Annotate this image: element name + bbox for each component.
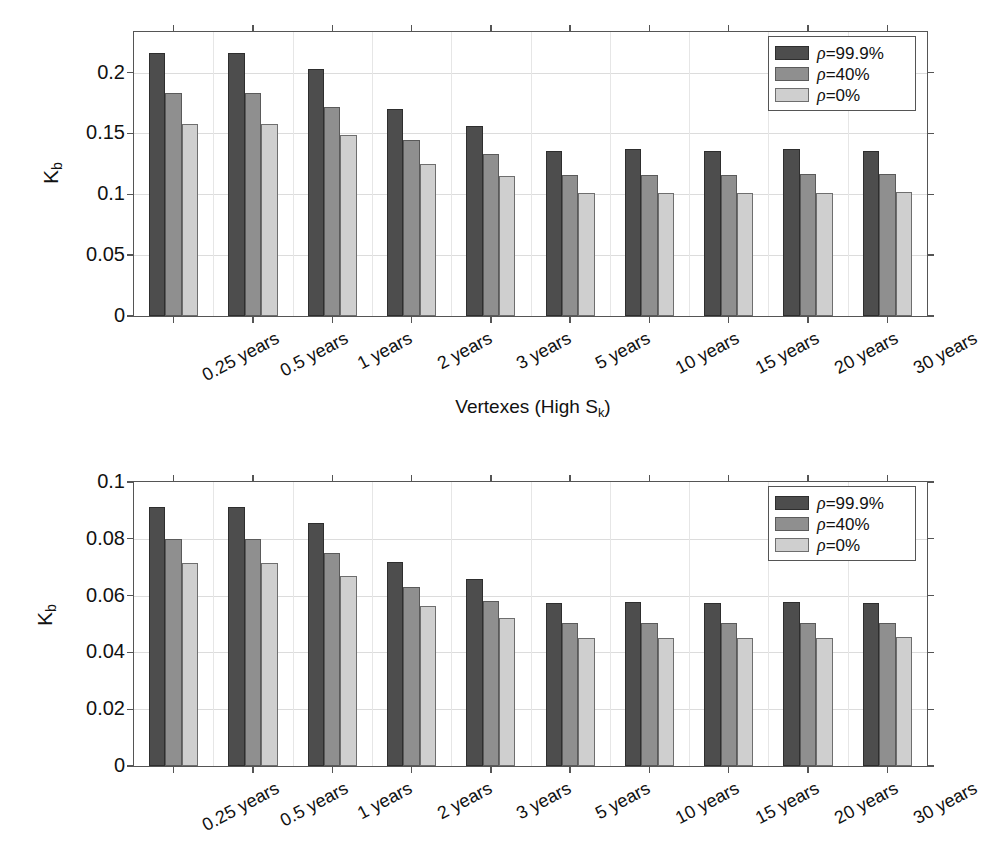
x-tick-top bbox=[490, 25, 491, 32]
legend-label: ρ=0% bbox=[817, 536, 860, 554]
x-category-label: 3 years bbox=[513, 778, 575, 824]
x-tick-top bbox=[173, 25, 174, 32]
bar bbox=[783, 149, 799, 316]
y-tick-right bbox=[927, 72, 934, 73]
bar bbox=[387, 562, 403, 766]
y-tick-right bbox=[927, 315, 934, 316]
x-gridline bbox=[293, 482, 294, 766]
legend-row[interactable]: ρ=99.9% bbox=[775, 42, 907, 63]
x-category-label: 3 years bbox=[513, 328, 575, 374]
x-gridline bbox=[293, 32, 294, 316]
x-gridline bbox=[451, 32, 452, 316]
bar bbox=[721, 175, 737, 316]
x-tick bbox=[807, 316, 808, 323]
x-tick bbox=[728, 766, 729, 773]
y-tick-label: 0.02 bbox=[0, 697, 125, 720]
x-tick bbox=[411, 316, 412, 323]
legend-row[interactable]: ρ=0% bbox=[775, 84, 907, 105]
bar bbox=[737, 638, 753, 766]
x-category-label: 30 years bbox=[910, 778, 981, 829]
bar bbox=[816, 193, 832, 316]
chart-panel-top: Kb Vertexes (High Sk) ρ=99.9%ρ=40%ρ=0% 0… bbox=[0, 0, 970, 450]
bar bbox=[420, 164, 436, 316]
legend-label: ρ=99.9% bbox=[817, 494, 884, 512]
legend-label: ρ=99.9% bbox=[817, 44, 884, 62]
bar bbox=[466, 126, 482, 316]
x-tick-top bbox=[332, 25, 333, 32]
rho-symbol: ρ bbox=[817, 493, 826, 513]
x-tick bbox=[569, 766, 570, 773]
rho-symbol: ρ bbox=[817, 535, 826, 555]
x-tick-top bbox=[173, 475, 174, 482]
bar bbox=[149, 53, 165, 316]
y-tick-right bbox=[927, 481, 934, 482]
bar bbox=[483, 154, 499, 316]
x-tick-top bbox=[807, 25, 808, 32]
y-tick bbox=[127, 709, 134, 710]
x-category-label: 0.25 years bbox=[198, 778, 282, 836]
y-axis-title-bottom-main: K bbox=[33, 612, 56, 626]
x-tick-top bbox=[252, 475, 253, 482]
bar bbox=[308, 523, 324, 766]
x-axis-title-top-tail: ) bbox=[604, 396, 610, 417]
legend-label: ρ=40% bbox=[817, 515, 870, 533]
y-tick bbox=[127, 72, 134, 73]
x-tick bbox=[490, 766, 491, 773]
bar bbox=[737, 193, 753, 316]
bar bbox=[546, 603, 562, 766]
bar bbox=[704, 603, 720, 766]
y-tick-right bbox=[927, 709, 934, 710]
bar bbox=[324, 553, 340, 766]
x-category-label: 20 years bbox=[831, 328, 902, 379]
y-tick-right bbox=[927, 254, 934, 255]
y-tick-label: 0.1 bbox=[0, 470, 125, 493]
x-category-label: 30 years bbox=[910, 328, 981, 379]
y-tick-right bbox=[927, 133, 934, 134]
x-tick bbox=[649, 766, 650, 773]
bar bbox=[863, 151, 879, 316]
x-gridline bbox=[213, 32, 214, 316]
x-tick bbox=[490, 316, 491, 323]
y-tick-right bbox=[927, 538, 934, 539]
bar bbox=[182, 124, 198, 316]
bar bbox=[641, 175, 657, 316]
bar bbox=[704, 151, 720, 316]
x-tick-top bbox=[332, 475, 333, 482]
y-tick bbox=[127, 765, 134, 766]
bar bbox=[658, 638, 674, 766]
legend-row[interactable]: ρ=0% bbox=[775, 534, 907, 555]
bar bbox=[499, 618, 515, 766]
bar bbox=[721, 623, 737, 766]
bar bbox=[261, 563, 277, 766]
y-tick bbox=[127, 133, 134, 134]
x-tick bbox=[887, 766, 888, 773]
legend-row[interactable]: ρ=99.9% bbox=[775, 492, 907, 513]
bar bbox=[800, 174, 816, 316]
x-gridline bbox=[531, 482, 532, 766]
legend-row[interactable]: ρ=40% bbox=[775, 63, 907, 84]
x-category-label: 5 years bbox=[592, 328, 654, 374]
bar bbox=[625, 149, 641, 316]
bar bbox=[261, 124, 277, 316]
x-tick-top bbox=[887, 25, 888, 32]
bar bbox=[896, 192, 912, 316]
y-tick-label: 0.2 bbox=[0, 60, 125, 83]
bar bbox=[182, 563, 198, 766]
y-tick bbox=[127, 254, 134, 255]
x-tick bbox=[728, 316, 729, 323]
legend-bottom[interactable]: ρ=99.9%ρ=40%ρ=0% bbox=[768, 486, 916, 561]
y-tick-label: 0 bbox=[0, 754, 125, 777]
bar bbox=[562, 623, 578, 766]
x-gridline bbox=[610, 482, 611, 766]
x-category-label: 1 years bbox=[354, 778, 416, 824]
x-gridline bbox=[372, 32, 373, 316]
legend-top[interactable]: ρ=99.9%ρ=40%ρ=0% bbox=[768, 36, 916, 111]
legend-swatch bbox=[775, 88, 809, 102]
bar bbox=[896, 637, 912, 766]
bar bbox=[658, 193, 674, 316]
y-tick-label: 0.05 bbox=[0, 243, 125, 266]
bar bbox=[800, 623, 816, 766]
legend-row[interactable]: ρ=40% bbox=[775, 513, 907, 534]
bar bbox=[466, 579, 482, 766]
x-gridline bbox=[372, 482, 373, 766]
